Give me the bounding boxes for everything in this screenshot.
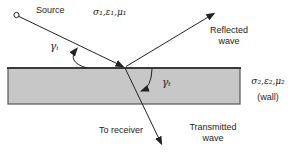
medium2-params-label: σ₂,ε₂,μ₂ — [245, 76, 290, 87]
to-receiver-label: To receiver — [99, 125, 143, 136]
wall-name-label: (wall) — [245, 92, 290, 103]
reflected-ray — [126, 14, 214, 67]
incidence-angle-label: γᵢ — [50, 41, 58, 52]
reflected-wave-label: Reflected wave — [203, 25, 255, 46]
incidence-angle-arc — [73, 49, 87, 69]
wall-rect — [8, 68, 240, 104]
incident-ray — [19, 17, 123, 67]
source-point — [14, 12, 19, 17]
transmitted-wave-label: Transmitted wave — [180, 122, 246, 143]
source-label: Source — [36, 5, 65, 16]
medium1-params-label: σ₁,ε₁,μ₁ — [93, 7, 126, 18]
transmission-angle-label: γₜ — [162, 77, 171, 88]
wave-propagation-diagram: Source σ₁,ε₁,μ₁ Reflected wave γᵢ γₜ σ₂,… — [0, 0, 290, 156]
